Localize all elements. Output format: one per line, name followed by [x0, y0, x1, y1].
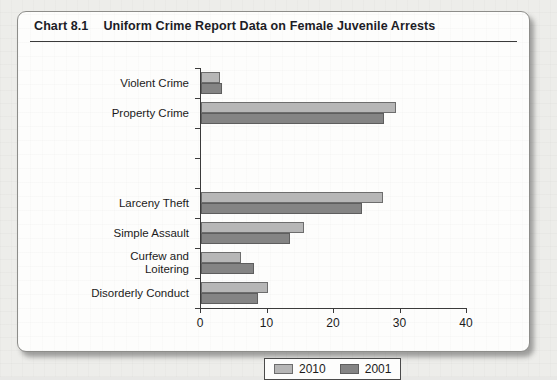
category-label: Property Crime: [39, 107, 189, 120]
bar-2010: [201, 192, 383, 203]
bar-2001: [201, 293, 258, 304]
category-label: Larceny Theft: [39, 197, 189, 210]
chart-category-row: Simple Assault: [200, 218, 466, 248]
plot-area: 010203040Violent CrimeProperty CrimeLarc…: [18, 46, 531, 353]
chart-category-row: Disorderly Conduct: [200, 278, 466, 308]
bar-2010: [201, 102, 396, 113]
chart-category-row: Curfew and Loitering: [200, 248, 466, 278]
bar-2001: [201, 233, 290, 244]
chart-category-row: Larceny Theft: [200, 188, 466, 218]
y-axis-tick: [195, 68, 200, 69]
x-axis-tick: [466, 308, 467, 313]
y-axis-tick: [195, 278, 200, 279]
category-label: Disorderly Conduct: [39, 287, 189, 300]
y-axis-tick: [195, 158, 200, 159]
x-axis-tick-label: 30: [393, 316, 406, 330]
y-axis-tick: [195, 188, 200, 189]
bar-2001: [201, 263, 254, 274]
chart-category-row-empty: [200, 158, 466, 188]
bar-2010: [201, 222, 304, 233]
y-axis-tick: [195, 308, 200, 309]
bar-2001: [201, 113, 384, 124]
category-label: Curfew and Loitering: [39, 250, 189, 276]
chart-category-row-empty: [200, 128, 466, 158]
bar-2001: [201, 203, 362, 214]
y-axis-tick: [195, 128, 200, 129]
legend-item-2001: 2001: [340, 362, 392, 376]
x-axis-tick-label: 0: [197, 316, 204, 330]
x-axis-tick: [200, 308, 201, 313]
chart-axes: 010203040Violent CrimeProperty CrimeLarc…: [200, 68, 466, 308]
x-axis-tick-label: 20: [326, 316, 339, 330]
chart-category-row: Property Crime: [200, 98, 466, 128]
y-axis-tick: [195, 248, 200, 249]
y-axis-tick: [195, 98, 200, 99]
chart-card: Chart 8.1 Uniform Crime Report Data on F…: [17, 11, 530, 352]
header-divider: [30, 41, 517, 42]
x-axis-tick: [400, 308, 401, 313]
bar-2010: [201, 282, 268, 293]
legend-swatch-2010-icon: [274, 364, 293, 374]
bar-2010: [201, 72, 220, 83]
x-axis-tick: [267, 308, 268, 313]
category-label: Violent Crime: [39, 77, 189, 90]
bar-2010: [201, 252, 241, 263]
legend-label-2001: 2001: [365, 362, 392, 376]
chart-title: Uniform Crime Report Data on Female Juve…: [103, 19, 435, 33]
x-axis-tick: [333, 308, 334, 313]
chart-category-row: Violent Crime: [200, 68, 466, 98]
legend-swatch-2001-icon: [340, 364, 359, 374]
chart-card-header: Chart 8.1 Uniform Crime Report Data on F…: [18, 12, 529, 40]
y-axis-tick: [195, 218, 200, 219]
legend-item-2010: 2010: [274, 362, 326, 376]
bar-2001: [201, 83, 222, 94]
legend-label-2010: 2010: [299, 362, 326, 376]
chart-legend: 2010 2001: [264, 358, 401, 380]
category-label: Simple Assault: [39, 227, 189, 240]
chart-number: Chart 8.1: [34, 19, 88, 33]
x-axis-tick-label: 10: [260, 316, 273, 330]
x-axis-tick-label: 40: [459, 316, 472, 330]
